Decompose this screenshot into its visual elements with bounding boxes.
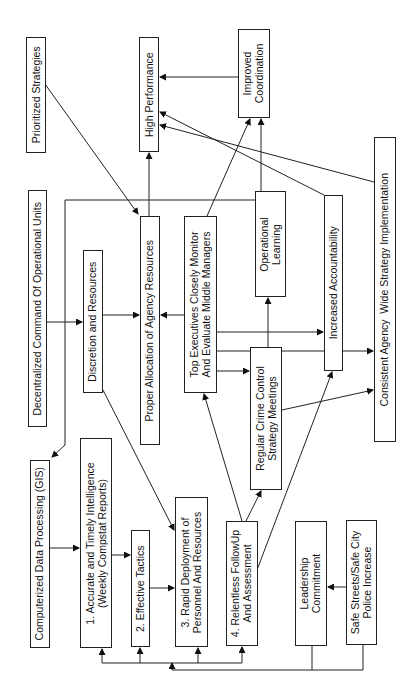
node-strategy-meetings: Regular Crime Control Strategy Meetings: [250, 347, 282, 490]
node-label: 3. Rapid Deployment of Personnel And Res…: [180, 511, 203, 632]
node-improved-coordination: Improved Coordination: [238, 29, 270, 118]
node-high-performance: High Performance: [139, 37, 159, 152]
node-effective-tactics: 2. Effective Tactics: [131, 530, 150, 647]
node-label: High Performance: [143, 52, 155, 137]
node-consistent-implementation: Consistent Agency Wide Strategy Implemen…: [374, 137, 396, 442]
node-rapid-deployment: 3. Rapid Deployment of Personnel And Res…: [175, 497, 208, 647]
node-label: 2. Effective Tactics: [135, 545, 147, 632]
node-label: Operational Learning: [259, 217, 282, 271]
node-label: Leadership Commitment: [300, 554, 323, 614]
node-operational-learning: Operational Learning: [255, 191, 286, 297]
node-relentless-followup: 4. Relentless FollowUp And Assessment: [226, 521, 258, 646]
node-increased-accountability: Increased Accountability: [324, 195, 343, 371]
node-safe-streets: Safe Streets/Safe City Police Increase: [346, 520, 377, 645]
node-label: 1. Accurate and Timely Intelligence (Wee…: [85, 462, 108, 624]
node-label: Prioritized Strategies: [30, 47, 42, 144]
node-proper-allocation: Proper Allocation of Agency Resources: [140, 216, 160, 445]
node-intelligence: 1. Accurate and Timely Intelligence (Wee…: [80, 438, 112, 648]
node-label: Computerized Data Processing (GIS): [34, 467, 46, 640]
node-label: 4. Relentless FollowUp And Assessment: [231, 530, 254, 637]
node-top-executives: Top Executives Closely Monitor And Evalu…: [184, 216, 217, 393]
node-label: Discretion and Resources: [87, 261, 99, 381]
node-prioritized-strategies: Prioritized Strategies: [26, 37, 46, 153]
node-label: Regular Crime Control Strategy Meetings: [255, 366, 278, 470]
node-label: Safe Streets/Safe City Police Increase: [350, 531, 373, 634]
node-label: Consistent Agency Wide Strategy Implemen…: [379, 173, 391, 406]
node-label: Proper Allocation of Agency Resources: [144, 240, 156, 422]
node-discretion: Discretion and Resources: [83, 250, 103, 393]
node-decentralized-command: Decentralized Command Of Operational Uni…: [28, 190, 47, 427]
node-label: Top Executives Closely Monitor And Evalu…: [189, 232, 212, 378]
node-label: Decentralized Command Of Operational Uni…: [32, 202, 44, 416]
node-label: Increased Accountability: [328, 226, 340, 339]
node-gis: Computerized Data Processing (GIS): [30, 460, 50, 648]
node-leadership-commitment: Leadership Commitment: [295, 521, 327, 646]
node-label: Improved Coordination: [243, 44, 266, 104]
